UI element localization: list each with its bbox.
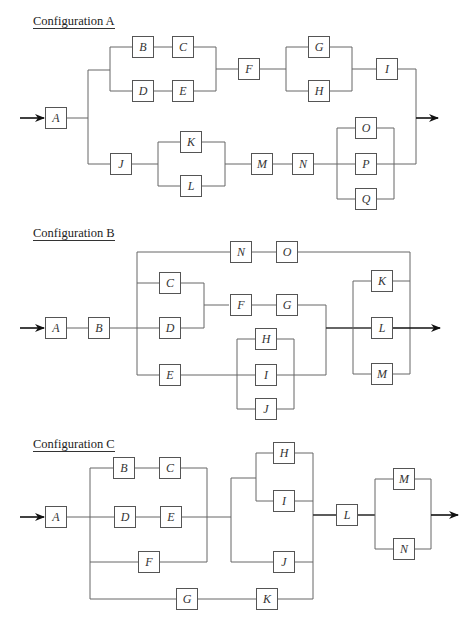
config-b-title: Configuration B <box>33 226 115 241</box>
config-b-block-f: F <box>230 294 252 316</box>
config-c-block-f: F <box>138 551 160 573</box>
config-a-title: Configuration A <box>33 14 115 29</box>
config-b-block-m: M <box>371 363 393 385</box>
config-c-block-n: N <box>393 538 415 560</box>
config-c-block-k: K <box>256 588 278 610</box>
config-c-block-b: B <box>113 457 135 479</box>
config-b-block-j: J <box>255 398 277 420</box>
config-c-block-i: I <box>273 490 295 512</box>
config-b-block-k: K <box>371 270 393 292</box>
config-c-block-l: L <box>336 504 358 526</box>
config-a-block-c: C <box>172 36 194 58</box>
config-c-block-a: A <box>45 506 67 528</box>
config-c-title: Configuration C <box>33 437 115 452</box>
config-a-block-a: A <box>45 107 67 129</box>
config-b-block-a: A <box>45 317 67 339</box>
config-c-block-c: C <box>159 457 181 479</box>
config-b-block-d: D <box>159 317 181 339</box>
config-c-block-g: G <box>176 588 198 610</box>
config-c-block-e: E <box>160 506 182 528</box>
config-c-block-h: H <box>273 442 295 464</box>
config-c-block-j: J <box>273 551 295 573</box>
config-b-block-b: B <box>88 317 110 339</box>
config-a-block-n: N <box>292 153 314 175</box>
config-a-block-k: K <box>180 131 202 153</box>
config-b-block-l: L <box>371 317 393 339</box>
config-b-block-h: H <box>255 328 277 350</box>
config-a-block-m: M <box>251 153 273 175</box>
config-a-block-i: I <box>376 58 398 80</box>
config-a-block-q: Q <box>355 188 377 210</box>
config-c-block-m: M <box>393 468 415 490</box>
config-a-block-d: D <box>132 80 154 102</box>
config-b-block-c: C <box>159 272 181 294</box>
config-b-block-o: O <box>276 241 298 263</box>
config-a-block-o: O <box>355 117 377 139</box>
config-a-block-l: L <box>180 175 202 197</box>
config-b-block-i: I <box>255 364 277 386</box>
config-a-block-f: F <box>238 58 260 80</box>
config-a-block-j: J <box>110 153 132 175</box>
config-c-block-d: D <box>114 506 136 528</box>
config-a-block-g: G <box>308 36 330 58</box>
config-b-block-n: N <box>230 241 252 263</box>
config-a-block-e: E <box>172 80 194 102</box>
config-b-block-g: G <box>276 294 298 316</box>
config-a-block-p: P <box>355 153 377 175</box>
config-b-block-e: E <box>159 364 181 386</box>
config-a-block-h: H <box>308 80 330 102</box>
config-a-block-b: B <box>132 36 154 58</box>
